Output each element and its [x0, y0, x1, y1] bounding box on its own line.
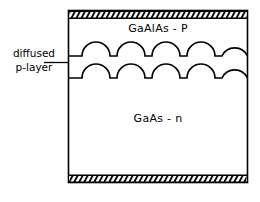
annotation-line-1: diffused: [4, 46, 64, 60]
upper-layer-label: GaAlAs - P: [28, 22, 260, 35]
bottom-contact-hatched-band: [69, 175, 247, 182]
annotation-line-2: p-layer: [4, 60, 64, 74]
diffused-p-layer-annotation: diffused p-layer: [4, 46, 64, 74]
device-outline: [69, 11, 248, 183]
semiconductor-cross-section-figure: GaAlAs - P GaAs - n diffused p-layer: [0, 0, 260, 202]
top-contact-hatched-band: [69, 11, 247, 18]
lower-layer-label: GaAs - n: [28, 112, 260, 125]
